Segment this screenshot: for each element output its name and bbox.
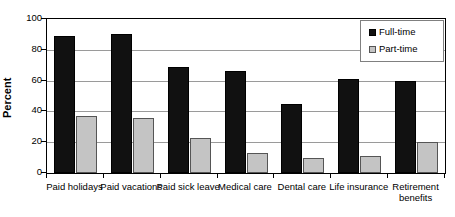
bar-part-time (76, 116, 97, 173)
x-axis-category-label: Paid vacations (99, 181, 164, 192)
x-axis-tick-mark (160, 173, 161, 178)
gridline (47, 81, 445, 82)
x-axis-category-label: Dental care (269, 181, 334, 192)
y-axis-tick-label: 80 (16, 44, 42, 53)
bar-full-time (281, 104, 302, 173)
bar-part-time (133, 118, 154, 173)
bar-full-time (395, 81, 416, 173)
bar-part-time (247, 153, 268, 173)
bar-full-time (168, 67, 189, 173)
x-axis-tick-mark (46, 173, 47, 178)
x-axis-tick-mark (103, 173, 104, 178)
x-axis-category-label: Retirement benefits (383, 181, 448, 203)
legend-item-label: Full-time (379, 27, 415, 37)
bar-full-time (338, 79, 359, 173)
y-axis-tick-label: 40 (16, 105, 42, 114)
x-axis-category-label: Paid holidays (42, 181, 107, 192)
y-axis-tick-label: 0 (16, 167, 42, 176)
bar-chart-figure: Percent 020406080100 Paid holidaysPaid v… (0, 0, 455, 217)
x-axis-tick-mark (330, 173, 331, 178)
bar-part-time (360, 156, 381, 173)
x-axis-tick-mark (273, 173, 274, 178)
chart-legend: Full-time Part-time (360, 20, 444, 62)
gray-square-swatch (369, 46, 376, 53)
x-axis-tick-mark (217, 173, 218, 178)
bar-full-time (111, 34, 132, 173)
legend-item-label: Part-time (379, 44, 418, 54)
legend-item-part-time: Part-time (369, 44, 418, 54)
bar-full-time (54, 36, 75, 173)
bar-part-time (190, 138, 211, 173)
bar-part-time (417, 142, 438, 173)
x-axis-tick-mark (444, 173, 445, 178)
x-axis-tick-mark (387, 173, 388, 178)
y-axis-title: Percent (0, 58, 14, 138)
bar-part-time (303, 158, 324, 173)
x-axis-category-label: Medical care (213, 181, 278, 192)
x-axis-category-label: Life insurance (326, 181, 391, 192)
y-axis-tick-label: 20 (16, 136, 42, 145)
x-axis-category-label: Paid sick leave (156, 181, 221, 192)
bar-full-time (225, 71, 246, 173)
gridline (47, 142, 445, 143)
gridline (47, 111, 445, 112)
black-square-swatch (369, 29, 376, 36)
y-axis-tick-label: 60 (16, 75, 42, 84)
y-axis-tick-label: 100 (16, 13, 42, 22)
legend-item-full-time: Full-time (369, 27, 415, 37)
